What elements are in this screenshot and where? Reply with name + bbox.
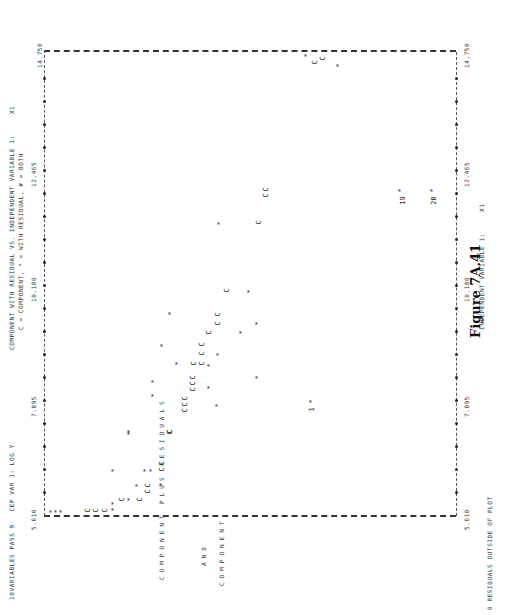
point-label-1: 1 [309,407,316,411]
data-point-component: C [182,408,189,412]
data-point-residual: * [111,507,118,511]
bottom-tick-1: 7.895 [463,396,470,417]
data-point-component: C [263,187,270,191]
footer-note: 0 RESIDUALS OUTSIDE OF PLOT [486,496,493,610]
data-point-residual: * [239,330,246,334]
chart-legend: C = COMPONENT, * = WITH RESIDUAL, # = BO… [17,153,24,330]
data-point-component: C [199,342,206,346]
data-point-component: C [199,361,206,365]
data-point-residual: * [135,483,142,487]
top-tick-0: 5.610 [30,509,37,530]
data-point-residual: * [160,343,167,347]
data-point-residual: * [149,468,156,472]
data-point-residual: * [255,375,262,379]
data-point-residual: * [168,311,175,315]
data-point-component: C [85,508,92,512]
top-tick-4: 14.750 [36,43,43,68]
data-point-residual: * [111,501,118,505]
bottom-tick-0: 5.610 [463,509,470,530]
data-point-residual: * [127,497,134,501]
chart-title: COMPONENT WITH RESIDUAL VS. INDEPENDENT … [8,106,15,350]
data-point-component: C [145,483,152,487]
top-tick-2: 10.180 [30,277,37,302]
data-point-component: C [320,56,327,60]
header-line1: 10VARIABLES PASS 9 CEP VAR 1: LOG Y [8,444,15,600]
data-point-residual: * [151,379,158,383]
data-point-residual: * [151,393,158,397]
data-point-residual: * [309,399,316,403]
data-point-residual: * [304,53,311,57]
data-point-component: C [182,402,189,406]
data-point-component: C [191,361,198,365]
data-point-residual: * [216,352,223,356]
data-point-component: C [206,330,213,334]
top-tick-3: 12.465 [30,162,37,187]
data-point-component: C [102,508,109,512]
data-point-residual: * [175,361,182,365]
data-point-component: C [215,312,222,316]
data-point-component: C [190,387,197,391]
y-axis-label-and: AND [200,543,207,566]
data-point-component: C [137,497,144,501]
data-point-component: C [312,60,319,64]
data-point-component: C [93,508,100,512]
data-point-component: C [224,288,231,292]
data-point-residual: * [127,429,134,433]
data-point-residual: * [247,289,254,293]
data-point-residual: * [255,321,262,325]
figure-caption: Figure 7A.41 [468,244,483,338]
data-point-residual: * [430,188,437,192]
top-tick-1: 7.895 [30,396,37,417]
data-point-residual: * [207,385,214,389]
data-point-component: C [182,396,189,400]
data-point-component: C [167,429,174,433]
data-point-component: C [263,193,270,197]
data-point-residual: * [207,363,214,367]
data-point-component: C [199,351,206,355]
y-axis-label-component: COMPONENT [218,517,225,586]
plot-frame-bottom [44,515,456,517]
bottom-tick-4: 14.750 [463,43,470,68]
data-point-residual: * [111,468,118,472]
bottom-tick-3: 12.465 [463,162,470,187]
data-point-residual: * [215,403,222,407]
point-label-19: 19 [400,196,407,204]
data-point-component: C [119,497,126,501]
data-point-component: C [215,321,222,325]
data-point-component: C [190,375,197,379]
data-point-residual: * [217,221,224,225]
data-point-residual: * [336,63,343,67]
data-point-residual: * [49,509,56,513]
data-point-component: C [145,489,152,493]
data-point-residual: * [398,188,405,192]
y-axis-label: COMPONENT PLUS RESIDUALS [158,397,165,580]
plot-frame-top [44,50,456,52]
point-label-20: 20 [431,196,438,204]
data-point-component: C [256,220,263,224]
data-point-component: C [190,381,197,385]
